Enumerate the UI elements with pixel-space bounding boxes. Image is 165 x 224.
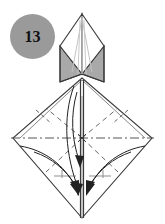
step-number-label: 13 bbox=[10, 14, 55, 59]
origami-diagram-figure: 13 bbox=[0, 0, 165, 224]
main-diamond-group bbox=[11, 78, 154, 218]
step-number-badge: 13 bbox=[10, 14, 55, 59]
